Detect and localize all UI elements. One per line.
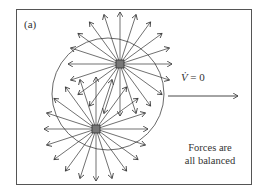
caption: Forces are all balanced <box>178 141 242 167</box>
force-arrow <box>120 15 136 65</box>
force-arrow <box>47 129 97 145</box>
force-arrow <box>120 64 170 80</box>
force-arrow <box>104 64 120 114</box>
force-arrow <box>65 87 96 129</box>
caption-line-2: all balanced <box>178 154 242 167</box>
force-arrow <box>47 113 97 129</box>
force-arrow <box>80 129 96 179</box>
upper-node-icon <box>116 60 124 68</box>
force-arrow <box>120 22 151 64</box>
caption-line-1: Forces are <box>178 141 242 154</box>
force-arrow <box>120 64 162 95</box>
force-arrow <box>96 98 138 129</box>
force-arrow <box>120 64 151 106</box>
lower-node-icon <box>92 125 100 133</box>
force-arrow <box>104 15 120 65</box>
velocity-equation: V̇ = 0 <box>181 71 205 83</box>
force-arrow <box>78 64 120 95</box>
force-arrow <box>96 80 112 130</box>
force-arrow <box>120 33 162 64</box>
force-arrow <box>71 48 121 64</box>
force-arrow <box>96 129 146 145</box>
panel-label: (a) <box>24 18 36 30</box>
force-arrow <box>96 129 112 179</box>
force-arrow <box>54 98 96 129</box>
v-dot-symbol: V̇ <box>181 71 188 83</box>
force-arrow <box>54 129 96 160</box>
force-arrow <box>96 87 127 129</box>
force-arrow <box>96 129 127 171</box>
force-arrow <box>89 22 120 64</box>
force-arrow <box>71 64 121 80</box>
equation-rhs: = 0 <box>190 71 204 83</box>
force-arrow <box>96 113 146 129</box>
force-arrow <box>120 48 170 64</box>
force-arrow <box>89 64 120 106</box>
